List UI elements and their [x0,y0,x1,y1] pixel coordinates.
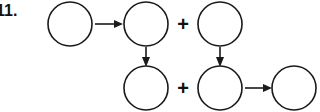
plus-operator-top: + [173,14,193,34]
node-top-1[interactable] [48,2,92,46]
node-bottom-3[interactable] [272,66,316,110]
node-top-3[interactable] [198,2,242,46]
arrow-bottom-2-to-bottom-3 [245,84,272,92]
diagram-canvas [0,0,320,112]
arrow-top-3-to-bottom-2 [216,47,224,67]
reaction-flow-diagram: 11. + + [0,0,320,112]
node-top-2[interactable] [124,2,168,46]
arrow-top-1-to-top-2 [95,20,123,28]
plus-operator-bottom: + [173,78,193,98]
node-bottom-1[interactable] [124,66,168,110]
node-bottom-2[interactable] [198,66,242,110]
arrow-top-2-to-bottom-1 [142,47,150,67]
